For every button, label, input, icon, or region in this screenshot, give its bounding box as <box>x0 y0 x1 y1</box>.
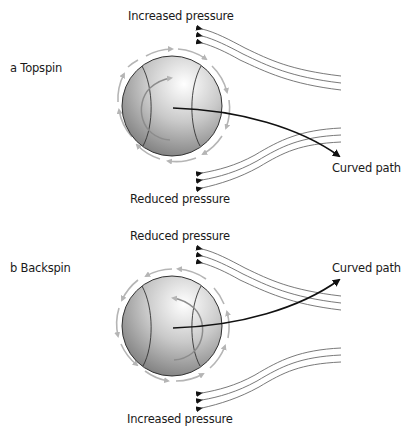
ball <box>122 56 222 156</box>
backspin-panel: b Backspin Reduced pressure Increased pr… <box>0 220 407 440</box>
bottom-pressure-label: Reduced pressure <box>130 192 230 206</box>
topspin-panel: a Topspin Increased pressure Reduced pre… <box>0 0 407 220</box>
panel-title: b Backspin <box>10 261 71 275</box>
curved-path-label: Curved path <box>332 261 401 275</box>
panel-title: a Topspin <box>10 61 62 75</box>
topspin-diagram <box>0 0 407 220</box>
curved-path-label: Curved path <box>332 161 401 175</box>
top-pressure-label: Increased pressure <box>128 9 234 23</box>
airflow-lines-bottom <box>202 348 341 408</box>
top-pressure-label: Reduced pressure <box>130 229 230 243</box>
backspin-diagram <box>0 220 407 441</box>
bottom-pressure-label: Increased pressure <box>127 412 233 426</box>
airflow-lines-bottom <box>202 128 341 188</box>
